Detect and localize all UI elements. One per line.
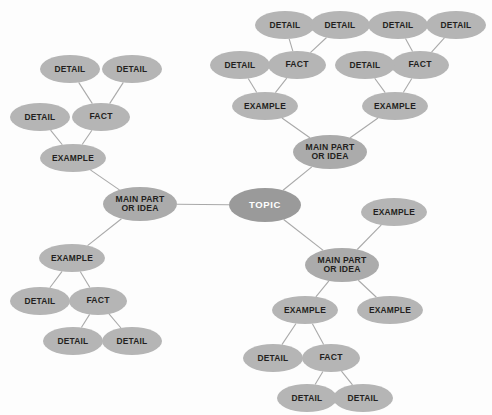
node-ex-tr-a[interactable]: EXAMPLE bbox=[232, 92, 298, 120]
node-det-tr-a3[interactable]: DETAIL bbox=[310, 11, 370, 39]
connector-ex-tr-b-to-fact-tr-b bbox=[403, 78, 412, 92]
node-det-tr-a1[interactable]: DETAIL bbox=[210, 51, 270, 79]
node-det-tl-3[interactable]: DETAIL bbox=[102, 55, 162, 83]
node-fact-tl[interactable]: FACT bbox=[72, 103, 130, 131]
connector-topic-to-main-top bbox=[283, 167, 312, 190]
connector-main-bot-to-ex-br-a bbox=[316, 281, 329, 297]
connector-fact-bl-to-det-bl-3 bbox=[109, 314, 121, 328]
connector-ex-bl-to-det-bl-1 bbox=[50, 271, 62, 287]
node-det-bl-3[interactable]: DETAIL bbox=[102, 327, 162, 355]
connector-main-left-to-ex-tl bbox=[90, 170, 119, 190]
node-det-tl-2[interactable]: DETAIL bbox=[40, 55, 100, 83]
connector-main-top-to-ex-tr-a bbox=[282, 118, 310, 138]
node-main-left[interactable]: MAIN PART OR IDEA bbox=[103, 187, 177, 221]
connector-main-left-to-ex-bl bbox=[88, 219, 122, 246]
node-det-bl-1[interactable]: DETAIL bbox=[10, 287, 70, 315]
node-det-tr-a2[interactable]: DETAIL bbox=[255, 11, 315, 39]
connector-fact-br-to-det-br-3 bbox=[341, 371, 352, 385]
node-det-br-2[interactable]: DETAIL bbox=[277, 384, 337, 412]
connector-main-bot-to-ex-mid-r bbox=[357, 225, 381, 250]
node-det-bl-2[interactable]: DETAIL bbox=[43, 327, 103, 355]
connector-ex-tr-a-to-det-tr-a1 bbox=[248, 78, 257, 92]
node-det-tr-b1[interactable]: DETAIL bbox=[335, 51, 395, 79]
connector-fact-tl-to-det-tl-3 bbox=[110, 82, 124, 103]
node-det-tl-1[interactable]: DETAIL bbox=[10, 103, 70, 131]
node-ex-mid-r[interactable]: EXAMPLE bbox=[361, 198, 427, 226]
mind-map-diagram: TOPICMAIN PART OR IDEAMAIN PART OR IDEAM… bbox=[0, 0, 492, 415]
node-ex-tl[interactable]: EXAMPLE bbox=[40, 144, 106, 172]
connector-fact-tr-b-to-det-tr-b3 bbox=[432, 38, 445, 52]
connector-fact-tr-a-to-det-tr-a3 bbox=[310, 38, 326, 53]
node-det-br-1[interactable]: DETAIL bbox=[243, 344, 303, 372]
connector-fact-tl-to-det-tl-2 bbox=[79, 82, 93, 103]
connector-topic-to-main-bot bbox=[284, 220, 324, 251]
connector-ex-tl-to-det-tl-1 bbox=[51, 130, 63, 145]
node-det-br-3[interactable]: DETAIL bbox=[333, 384, 393, 412]
connector-fact-tr-b-to-det-tr-b2 bbox=[405, 39, 412, 52]
connector-ex-bl-to-fact-bl bbox=[80, 272, 90, 288]
node-fact-tr-b[interactable]: FACT bbox=[391, 51, 449, 79]
node-main-top[interactable]: MAIN PART OR IDEA bbox=[293, 135, 367, 169]
connector-main-top-to-ex-tr-b bbox=[350, 118, 378, 138]
node-ex-tr-b[interactable]: EXAMPLE bbox=[362, 92, 428, 120]
connector-fact-tr-a-to-det-tr-a2 bbox=[289, 39, 293, 51]
connector-ex-br-a-to-fact-br bbox=[312, 324, 323, 345]
node-fact-bl[interactable]: FACT bbox=[69, 287, 127, 315]
node-main-bot[interactable]: MAIN PART OR IDEA bbox=[305, 248, 379, 282]
node-fact-br[interactable]: FACT bbox=[302, 344, 360, 372]
connector-fact-bl-to-det-bl-2 bbox=[81, 314, 89, 327]
connector-ex-tr-b-to-det-tr-b1 bbox=[375, 78, 386, 92]
node-fact-tr-a[interactable]: FACT bbox=[268, 51, 326, 79]
node-ex-br-b[interactable]: EXAMPLE bbox=[357, 296, 423, 324]
connector-ex-br-a-to-det-br-1 bbox=[282, 323, 296, 344]
node-det-tr-b3[interactable]: DETAIL bbox=[426, 11, 486, 39]
connector-ex-tl-to-fact-tl bbox=[82, 130, 92, 144]
node-ex-br-a[interactable]: EXAMPLE bbox=[272, 296, 338, 324]
connector-main-bot-to-ex-br-b bbox=[358, 280, 376, 297]
node-det-tr-b2[interactable]: DETAIL bbox=[368, 11, 428, 39]
node-ex-bl[interactable]: EXAMPLE bbox=[39, 244, 105, 272]
connector-fact-br-to-det-br-2 bbox=[315, 371, 323, 384]
node-topic[interactable]: TOPIC bbox=[229, 188, 301, 222]
connector-ex-tr-a-to-fact-tr-a bbox=[275, 78, 286, 93]
